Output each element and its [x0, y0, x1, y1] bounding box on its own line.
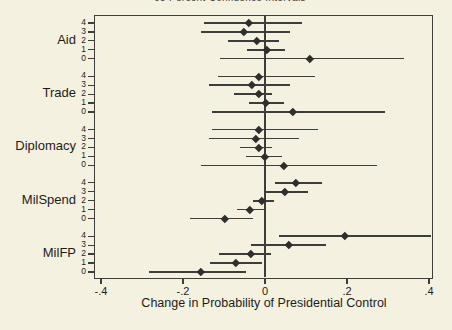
- y-tick: [88, 22, 94, 23]
- y-tick-label: 0: [70, 107, 86, 116]
- x-tick-label: .4: [413, 285, 445, 297]
- y-tick: [88, 271, 94, 272]
- x-tick-label: .2: [331, 285, 363, 297]
- x-tick-label: -.4: [85, 285, 117, 297]
- x-tick: [100, 279, 101, 284]
- ci-line: [234, 93, 271, 95]
- ci-line: [212, 129, 318, 131]
- x-tick-label: 0: [249, 285, 281, 297]
- x-tick-label: -.2: [167, 285, 199, 297]
- ci-line: [212, 111, 385, 113]
- y-tick: [88, 236, 94, 237]
- y-tick: [88, 262, 94, 263]
- ci-line: [201, 165, 377, 167]
- y-tick: [88, 156, 94, 157]
- y-tick: [88, 218, 94, 219]
- y-tick-label: 0: [70, 214, 86, 223]
- group-label: MilSpend: [4, 193, 76, 207]
- y-tick: [88, 147, 94, 148]
- coefficient-plot-figure: 95 Percent Confidence Intervals Change i…: [0, 0, 452, 330]
- y-tick: [88, 191, 94, 192]
- x-tick: [182, 279, 183, 284]
- clipped-title-text: 95 Percent Confidence Intervals: [140, 0, 320, 3]
- x-tick: [346, 279, 347, 284]
- y-tick: [88, 94, 94, 95]
- group-label: Diplomacy: [4, 139, 76, 153]
- x-tick: [264, 279, 265, 284]
- y-tick: [88, 40, 94, 41]
- y-tick: [88, 111, 94, 112]
- y-tick: [88, 31, 94, 32]
- ci-line: [218, 76, 315, 78]
- y-tick: [88, 165, 94, 166]
- y-tick: [88, 209, 94, 210]
- y-tick-label: 0: [70, 54, 86, 63]
- y-tick: [88, 129, 94, 130]
- y-tick: [88, 49, 94, 50]
- x-axis-title: Change in Probability of Presidential Co…: [95, 297, 433, 311]
- y-tick-label: 0: [70, 160, 86, 169]
- y-tick-label: 0: [70, 267, 86, 276]
- clipped-title: 95 Percent Confidence Intervals: [140, 0, 320, 4]
- y-tick: [88, 200, 94, 201]
- ci-line: [279, 235, 430, 237]
- x-tick: [428, 279, 429, 284]
- y-tick: [88, 138, 94, 139]
- y-tick: [88, 253, 94, 254]
- y-tick: [88, 58, 94, 59]
- y-tick: [88, 182, 94, 183]
- y-tick: [88, 76, 94, 77]
- group-label: Aid: [4, 33, 76, 47]
- group-label: Trade: [4, 86, 76, 100]
- group-label: MilFP: [4, 246, 76, 260]
- ci-line: [219, 253, 271, 255]
- y-tick: [88, 102, 94, 103]
- y-tick: [88, 245, 94, 246]
- y-tick: [88, 85, 94, 86]
